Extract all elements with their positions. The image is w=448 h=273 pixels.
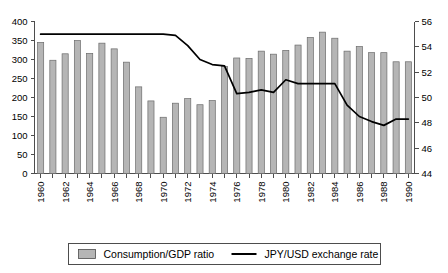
bar-1988 [381, 53, 387, 174]
bar-1973 [197, 105, 203, 174]
y-tick-label-right: 50 [422, 92, 433, 103]
bar-1970 [160, 117, 166, 173]
x-tick-label-1972: 1972 [182, 182, 193, 203]
bar-1963 [74, 41, 80, 174]
y-tick-label-left: 400 [12, 16, 28, 27]
bar-1990 [405, 62, 411, 174]
bar-1975 [221, 66, 227, 173]
bar-1961 [50, 60, 56, 173]
x-tick-label-1984: 1984 [329, 181, 340, 202]
x-tick-label-1974: 1974 [207, 181, 218, 202]
bar-1978 [258, 51, 264, 173]
bar-1976 [234, 58, 240, 174]
legend-swatch-consumption [79, 250, 96, 259]
y-tick-label-left: 300 [12, 54, 28, 65]
bar-1971 [172, 103, 178, 173]
bar-1974 [209, 101, 215, 174]
x-axis-ticks: 1960196219641966196819701972197419761978… [35, 174, 414, 203]
x-tick-label-1970: 1970 [158, 182, 169, 203]
y-tick-label-right: 54 [422, 41, 433, 52]
x-tick-label-1966: 1966 [109, 182, 120, 203]
x-tick-label-1968: 1968 [133, 181, 144, 202]
x-tick-label-1962: 1962 [60, 182, 71, 203]
bar-1983 [320, 32, 326, 173]
bar-1981 [295, 45, 301, 173]
x-tick-label-1988: 1988 [378, 181, 389, 202]
bar-1967 [123, 62, 129, 173]
bar-1985 [344, 51, 350, 173]
y-tick-label-left: 250 [12, 73, 28, 84]
y-tick-label-left: 200 [12, 92, 28, 103]
y-tick-label-left: 50 [17, 149, 28, 160]
bar-1977 [246, 58, 252, 173]
legend: Consumption/GDP ratioJPY/USD exchange ra… [69, 244, 381, 265]
chart-container: 0501001502002503003504004446485052545619… [0, 0, 448, 273]
y-tick-label-left: 100 [12, 130, 28, 141]
bar-1987 [369, 53, 375, 174]
x-tick-label-1980: 1980 [280, 181, 291, 202]
y-axis-left-ticks: 050100150200250300350400 [12, 16, 35, 179]
y-tick-label-left: 150 [12, 111, 28, 122]
bar-1989 [393, 62, 399, 174]
y-tick-label-right: 56 [422, 16, 433, 27]
bar-1969 [148, 101, 154, 174]
bar-1980 [283, 50, 289, 173]
x-tick-label-1960: 1960 [35, 182, 46, 203]
x-tick-label-1976: 1976 [231, 182, 242, 203]
bar-1965 [99, 43, 105, 173]
y-tick-label-left: 350 [12, 35, 28, 46]
bar-1986 [356, 47, 362, 174]
bar-1968 [136, 87, 142, 174]
bar-1962 [62, 54, 68, 174]
x-tick-label-1986: 1986 [354, 182, 365, 203]
bar-1972 [185, 99, 191, 174]
bar-1984 [332, 38, 338, 173]
y-tick-label-right: 48 [422, 117, 433, 128]
y-tick-label-left: 0 [22, 168, 27, 179]
x-tick-label-1964: 1964 [84, 181, 95, 202]
x-tick-label-1978: 1978 [256, 181, 267, 202]
bar-1960 [38, 42, 44, 173]
x-tick-label-1990: 1990 [403, 181, 414, 202]
legend-label-exchange-rate: JPY/USD exchange rate [265, 248, 379, 260]
combo-chart: 0501001502002503003504004446485052545619… [0, 0, 448, 273]
y-tick-label-right: 46 [422, 143, 433, 154]
bar-1982 [307, 37, 313, 173]
y-tick-label-right: 44 [422, 168, 433, 179]
y-tick-label-right: 52 [422, 67, 433, 78]
bar-1964 [87, 53, 93, 173]
x-tick-label-1982: 1982 [305, 182, 316, 203]
bar-series [38, 32, 412, 173]
bar-1979 [270, 54, 276, 173]
legend-label-consumption: Consumption/GDP ratio [104, 248, 215, 260]
bar-1966 [111, 49, 117, 174]
y-axis-right-ticks: 44464850525456 [415, 16, 433, 179]
